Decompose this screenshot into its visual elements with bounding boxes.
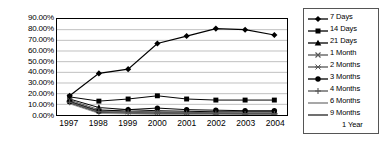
- legend-item[interactable]: 4 Months: [304, 83, 378, 95]
- y-axis-tick-label: 70.00%: [0, 36, 54, 44]
- legend-item[interactable]: 2 Months: [304, 59, 378, 71]
- x-axis-tick-label: 2000: [148, 118, 167, 128]
- legend-item[interactable]: 1 Month: [304, 47, 378, 59]
- legend-marker-square-icon: [307, 23, 329, 35]
- legend-marker-diamond-icon: [307, 11, 329, 23]
- legend-marker-circle-icon: [307, 71, 329, 83]
- y-axis-tick-label: 0.00%: [0, 112, 54, 120]
- y-axis-tick-label: 60.00%: [0, 47, 54, 55]
- chart-container: 0.00%10.00%20.00%30.00%40.00%50.00%60.00…: [0, 0, 385, 142]
- x-axis: 19971998199920002001200220032004: [56, 118, 288, 132]
- x-axis-tick-label: 2001: [177, 118, 196, 128]
- y-axis-tick-label: 10.00%: [0, 101, 54, 109]
- legend-item-label: 3 Months: [329, 71, 360, 83]
- legend-item-label: 1 Year: [329, 119, 363, 131]
- y-axis-tick-label: 90.00%: [0, 14, 54, 22]
- series-layer: [57, 19, 287, 115]
- legend-item-label: 1 Month: [329, 47, 356, 59]
- legend-item-label: 14 Days: [329, 23, 357, 35]
- legend-item-label: 6 Months: [329, 95, 360, 107]
- legend-marker-plus-icon: [307, 83, 329, 95]
- legend-marker-none-icon: [307, 107, 329, 119]
- legend-marker-x-icon: [307, 47, 329, 59]
- plot-area: [56, 18, 288, 116]
- y-axis-tick-label: 20.00%: [0, 90, 54, 98]
- legend-marker-star-icon: [307, 59, 329, 71]
- legend-item-label: 7 Days: [329, 11, 353, 23]
- y-axis-tick-label: 40.00%: [0, 68, 54, 76]
- legend-item[interactable]: 9 Months: [304, 107, 378, 119]
- x-axis-tick-label: 1998: [89, 118, 108, 128]
- y-axis-tick-label: 80.00%: [0, 25, 54, 33]
- legend-item[interactable]: 7 Days: [304, 11, 378, 23]
- legend-item[interactable]: 14 Days: [304, 23, 378, 35]
- legend-item-label: 2 Months: [329, 59, 360, 71]
- legend-item[interactable]: 21 Days: [304, 35, 378, 47]
- legend-item[interactable]: 3 Months: [304, 71, 378, 83]
- legend-item[interactable]: 6 Months: [304, 95, 378, 107]
- legend-item-label: 9 Months: [329, 107, 360, 119]
- legend-item-label: 21 Days: [329, 35, 357, 47]
- x-axis-tick-label: 2003: [236, 118, 255, 128]
- legend-item-label: 4 Months: [329, 83, 360, 95]
- x-axis-tick-label: 1999: [118, 118, 137, 128]
- x-axis-tick-label: 2004: [266, 118, 285, 128]
- y-axis-tick-label: 30.00%: [0, 79, 54, 87]
- legend-marker-none-icon: [307, 95, 329, 107]
- x-axis-tick-label: 1997: [59, 118, 78, 128]
- y-axis: 0.00%10.00%20.00%30.00%40.00%50.00%60.00…: [0, 18, 54, 116]
- x-axis-tick-label: 2002: [207, 118, 226, 128]
- y-axis-tick-label: 50.00%: [0, 58, 54, 66]
- chart-legend: 7 Days14 Days21 Days1 Month2 Months3 Mon…: [303, 8, 379, 134]
- legend-marker-triangle-icon: [307, 35, 329, 47]
